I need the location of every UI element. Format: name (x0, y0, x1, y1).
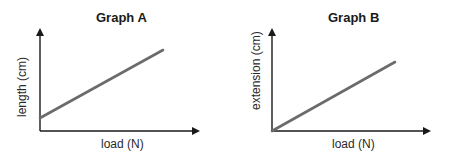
graph-title: Graph B (328, 10, 379, 25)
x-axis-label: load (N) (332, 137, 375, 151)
data-line (40, 50, 163, 118)
data-line (272, 62, 395, 131)
graph-title: Graph A (96, 10, 147, 25)
y-axis-label: length (cm) (15, 57, 29, 117)
y-axis-label: extension (cm) (249, 31, 263, 110)
graph-b: Graph B load (N) extension (cm) (225, 0, 450, 162)
x-axis-label: load (N) (101, 137, 144, 151)
graph-a: Graph A load (N) length (cm) (0, 0, 225, 162)
